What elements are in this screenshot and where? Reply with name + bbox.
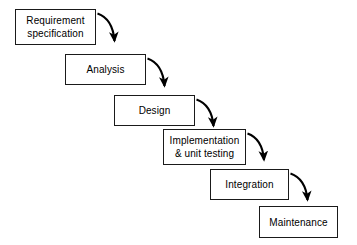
arrow-requirement-to-analysis	[98, 14, 115, 42]
phase-box-design[interactable]: Design	[114, 95, 195, 126]
arrow-analysis-to-design	[148, 59, 165, 87]
waterfall-diagram-canvas: Requirement specification Analysis Desig…	[0, 0, 357, 245]
arrow-design-to-implementation	[197, 100, 214, 127]
phase-label-line: specification	[27, 27, 83, 40]
arrow-integration-to-maintenance	[291, 174, 308, 201]
phase-box-analysis[interactable]: Analysis	[65, 54, 146, 85]
phase-box-implementation-unit-testing[interactable]: Implementation & unit testing	[163, 129, 246, 165]
phase-label-line: Requirement	[26, 14, 84, 27]
phase-label-line: Design	[139, 104, 171, 117]
phase-box-maintenance[interactable]: Maintenance	[259, 206, 338, 238]
phase-label-line: Maintenance	[269, 216, 327, 229]
phase-box-requirement-specification[interactable]: Requirement specification	[15, 9, 96, 45]
arrow-implementation-to-integration	[248, 134, 265, 161]
phase-label-line: Analysis	[86, 63, 124, 76]
phase-label-line: Integration	[225, 178, 273, 191]
phase-box-integration[interactable]: Integration	[210, 169, 289, 200]
phase-label-line: Implementation	[170, 134, 240, 147]
phase-label-line: & unit testing	[175, 147, 234, 160]
